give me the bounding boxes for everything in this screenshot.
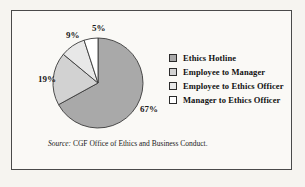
source-keyword: Source: [48, 139, 71, 148]
legend-swatch-employee-to-manager [169, 68, 177, 76]
legend-swatch-manager-to-ethics-officer [169, 96, 177, 104]
legend-item-2: Employee to Ethics Officer [169, 79, 293, 92]
legend-item-1: Employee to Manager [169, 65, 293, 78]
legend-item-0: Ethics Hotline [169, 51, 293, 64]
legend-swatch-ethics-hotline [169, 54, 177, 62]
source-text: CGF Office of Ethics and Business Conduc… [73, 139, 208, 148]
source-note: Source: CGF Office of Ethics and Busines… [48, 139, 208, 148]
legend-swatch-employee-to-ethics-officer [169, 82, 177, 90]
legend-label-2: Employee to Ethics Officer [183, 81, 284, 91]
pie-slice-label-19: 19% [38, 75, 56, 84]
legend-label-1: Employee to Manager [183, 67, 265, 77]
legend-label-3: Manager to Ethics Officer [183, 95, 280, 105]
figure-frame: 67% 19% 9% 5% Ethics Hotline Employee to… [11, 10, 292, 170]
pie-slice-label-5: 5% [92, 24, 106, 33]
pie-slice-label-67: 67% [140, 105, 158, 114]
legend-label-0: Ethics Hotline [183, 53, 236, 63]
pie-slice-label-9: 9% [66, 31, 80, 40]
legend-item-3: Manager to Ethics Officer [169, 93, 293, 106]
chart-legend: Ethics Hotline Employee to Manager Emplo… [169, 51, 293, 107]
